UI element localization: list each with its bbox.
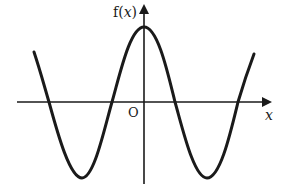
origin-label: O: [128, 105, 139, 120]
y-axis-label: f(x): [113, 4, 137, 20]
function-graph: f(x) O x: [0, 0, 283, 196]
y-axis-arrow-icon: [139, 4, 149, 14]
x-axis-label: x: [265, 107, 273, 123]
x-axis-arrow-icon: [262, 97, 272, 107]
